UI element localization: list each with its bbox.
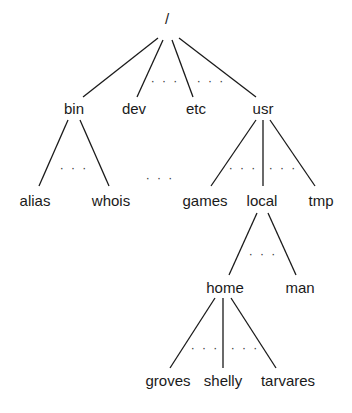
- edge-home-tarvares: [231, 298, 276, 368]
- node-root: /: [165, 11, 169, 26]
- node-man: man: [285, 280, 314, 295]
- edge-usr-games: [211, 120, 256, 186]
- node-home: home: [206, 280, 244, 295]
- node-games: games: [182, 193, 227, 208]
- edge-root-etc: [172, 40, 193, 97]
- edge-usr-tmp: [270, 120, 315, 186]
- node-tmp: tmp: [308, 193, 333, 208]
- ellipsis-marker: · · ·: [229, 162, 258, 174]
- edge-local-home: [229, 213, 257, 275]
- node-shelly: shelly: [204, 373, 242, 388]
- edge-bin-whois: [80, 120, 109, 186]
- ellipsis-marker: · · ·: [151, 75, 180, 87]
- node-dev: dev: [122, 101, 146, 116]
- edge-root-dev: [137, 40, 163, 97]
- edge-root-bin: [83, 38, 158, 97]
- directory-tree-diagram: /bindevetcusraliaswhoisgameslocaltmphome…: [0, 0, 352, 413]
- edge-local-man: [268, 213, 296, 275]
- edge-home-groves: [170, 298, 215, 368]
- node-whois: whois: [92, 193, 130, 208]
- ellipsis-marker: · · ·: [197, 75, 226, 87]
- node-local: local: [247, 193, 278, 208]
- ellipsis-marker: · · ·: [231, 342, 260, 354]
- edge-bin-alias: [39, 120, 68, 186]
- edge-root-usr: [179, 38, 256, 97]
- node-groves: groves: [145, 373, 190, 388]
- ellipsis-marker: · · ·: [191, 342, 220, 354]
- node-bin: bin: [64, 101, 84, 116]
- node-etc: etc: [186, 101, 206, 116]
- ellipsis-marker: · · ·: [269, 162, 298, 174]
- node-alias: alias: [20, 193, 51, 208]
- tree-edges: [0, 0, 352, 413]
- node-usr: usr: [253, 101, 274, 116]
- ellipsis-marker: · · ·: [249, 248, 278, 260]
- ellipsis-marker: · · ·: [60, 162, 89, 174]
- ellipsis-marker: · · ·: [146, 172, 175, 184]
- node-tarvares: tarvares: [261, 373, 315, 388]
